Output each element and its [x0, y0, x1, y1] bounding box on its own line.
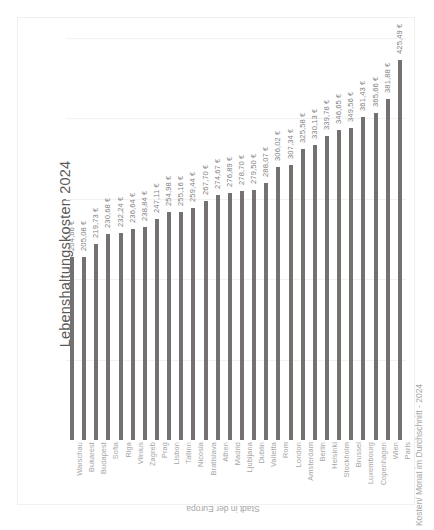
- category-tick-slot: Budapest: [90, 442, 102, 500]
- category-tick-slot: Berlin: [309, 442, 321, 500]
- category-tick-slot: Sofia: [102, 442, 114, 500]
- category-tick-slot: Paris: [394, 442, 406, 500]
- category-tick-slot: Warschau: [66, 442, 78, 500]
- bar-series: 204,66 €205,08 €219,73 €230,68 €232,24 €…: [66, 38, 406, 440]
- bar-value-label: 279,50 €: [249, 154, 258, 184]
- bar-value-label: 349,56 €: [346, 91, 355, 121]
- category-tick-slot: Dublin: [248, 442, 260, 500]
- bar: [252, 190, 256, 440]
- category-tick-slot: Madrid: [224, 442, 236, 500]
- bar-slot: 274,67 €: [212, 38, 224, 440]
- bar: [167, 212, 171, 440]
- category-tick-slot: Helsinki: [321, 442, 333, 500]
- bar: [131, 229, 135, 440]
- category-tick-slot: Brussel: [345, 442, 357, 500]
- bar: [289, 165, 293, 440]
- bar-value-label: 247,11 €: [152, 183, 161, 213]
- bar-slot: 238,84 €: [139, 38, 151, 440]
- bar-slot: 349,56 €: [345, 38, 357, 440]
- category-tick-slot: London: [285, 442, 297, 500]
- bar-slot: 306,02 €: [272, 38, 284, 440]
- bar: [301, 149, 305, 440]
- bar: [386, 99, 390, 440]
- bar: [313, 145, 317, 440]
- category-tick-slot: Vilnius: [127, 442, 139, 500]
- bar-value-label: 365,66 €: [371, 77, 380, 107]
- bar-slot: 325,58 €: [297, 38, 309, 440]
- bar-value-label: 330,13 €: [310, 109, 319, 139]
- bar-slot: 339,78 €: [321, 38, 333, 440]
- bar-value-label: 236,64 €: [128, 192, 137, 222]
- category-tick-slot: Valletta: [260, 442, 272, 500]
- bar: [349, 128, 353, 440]
- category-axis-title: Stadt in der Europa: [168, 504, 278, 514]
- bar-value-label: 276,89 €: [225, 156, 234, 186]
- bar-slot: 254,98 €: [163, 38, 175, 440]
- bar-slot: 288,07 €: [260, 38, 272, 440]
- bar-slot: 279,50 €: [248, 38, 260, 440]
- bar: [398, 60, 402, 440]
- bar-slot: 425,49 €: [394, 38, 406, 440]
- category-tick-slot: Wien: [382, 442, 394, 500]
- bar: [179, 212, 183, 440]
- bar: [82, 257, 86, 440]
- bar: [264, 183, 268, 440]
- plot-area: 204,66 €205,08 €219,73 €230,68 €232,24 €…: [66, 38, 406, 440]
- bar-slot: 267,70 €: [200, 38, 212, 440]
- bar-slot: 236,64 €: [127, 38, 139, 440]
- bar-slot: 381,88 €: [382, 38, 394, 440]
- value-axis-title: Kosten/ Monat im Durchschnitt - 2024: [414, 360, 424, 530]
- bar-value-label: 288,07 €: [261, 146, 270, 176]
- bar-value-label: 204,66 €: [67, 221, 76, 251]
- category-tick-slot: Bratislava: [200, 442, 212, 500]
- bar-slot: 278,70 €: [236, 38, 248, 440]
- bar: [216, 195, 220, 440]
- bar-slot: 346,65 €: [333, 38, 345, 440]
- category-tick-slot: Rom: [272, 442, 284, 500]
- category-tick-slot: Amsterdam: [297, 442, 309, 500]
- category-tick-label: Paris: [403, 442, 412, 459]
- bar: [361, 117, 365, 440]
- bar-slot: 230,68 €: [102, 38, 114, 440]
- category-tick-slot: Tallinn: [175, 442, 187, 500]
- bar-slot: 247,11 €: [151, 38, 163, 440]
- bar: [374, 113, 378, 440]
- bar-value-label: 425,49 €: [395, 24, 404, 54]
- bar: [106, 234, 110, 440]
- category-tick-slot: Lisbon: [163, 442, 175, 500]
- bar-slot: 255,16 €: [175, 38, 187, 440]
- category-tick-slot: Ljubljana: [236, 442, 248, 500]
- chart-frame: Lebenshaltungskosten 2024 204,66 €205,08…: [17, 17, 415, 505]
- bar-value-label: 325,58 €: [298, 113, 307, 143]
- bar-value-label: 307,34 €: [286, 129, 295, 159]
- bar-value-label: 346,65 €: [334, 94, 343, 124]
- category-tick-slot: Zagreb: [139, 442, 151, 500]
- category-tick-slot: Riga: [115, 442, 127, 500]
- bar-value-label: 381,88 €: [383, 63, 392, 93]
- category-tick-slot: Bukarest: [78, 442, 90, 500]
- bar: [240, 191, 244, 440]
- bar: [94, 244, 98, 440]
- bar-slot: 205,08 €: [78, 38, 90, 440]
- bar-value-label: 219,73 €: [91, 207, 100, 237]
- bar-value-label: 205,08 €: [79, 220, 88, 250]
- bar: [191, 208, 195, 440]
- category-tick-slot: Nicosia: [187, 442, 199, 500]
- bar-slot: 219,73 €: [90, 38, 102, 440]
- bar-slot: 276,89 €: [224, 38, 236, 440]
- bar-value-label: 232,24 €: [116, 196, 125, 226]
- bar: [204, 201, 208, 440]
- bar: [155, 219, 159, 440]
- bar-slot: 204,66 €: [66, 38, 78, 440]
- bar-slot: 365,66 €: [370, 38, 382, 440]
- bar-value-label: 254,98 €: [164, 176, 173, 206]
- bar-value-label: 361,43 €: [358, 81, 367, 111]
- bar-slot: 259,44 €: [187, 38, 199, 440]
- bar-value-label: 267,70 €: [201, 165, 210, 195]
- category-tick-slot: Stockholm: [333, 442, 345, 500]
- category-tick-slot: Prag: [151, 442, 163, 500]
- bar-slot: 330,13 €: [309, 38, 321, 440]
- category-tick-slot: Luxembourg: [357, 442, 369, 500]
- bar-value-label: 306,02 €: [273, 130, 282, 160]
- bar: [143, 227, 147, 440]
